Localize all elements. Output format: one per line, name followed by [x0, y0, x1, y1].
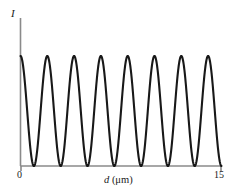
x-axis-label-unit: (μm) — [112, 174, 133, 185]
x-axis-ticklabel-left: 0 — [17, 170, 22, 180]
plot-canvas — [0, 0, 237, 196]
x-axis-ticklabel-right: 15 — [214, 170, 224, 180]
interference-intensity-figure: I d (μm) 0 15 — [0, 0, 237, 196]
intensity-curve — [21, 56, 222, 166]
x-axis-label: d (μm) — [104, 175, 133, 186]
y-axis-label: I — [11, 8, 15, 19]
